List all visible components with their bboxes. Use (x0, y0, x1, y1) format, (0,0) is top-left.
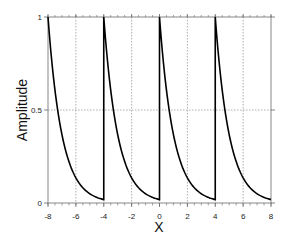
y-tick-label: 1 (38, 13, 43, 22)
x-tick-label: 4 (213, 212, 218, 221)
x-tick-label: 2 (185, 212, 190, 221)
x-tick-label: -6 (72, 212, 80, 221)
y-tick-label: 0.5 (31, 106, 43, 115)
y-axis-label: Amplitude (14, 79, 30, 141)
x-tick-label: -2 (128, 212, 136, 221)
axis-ticks: -8-6-4-20246800.51 (31, 13, 275, 221)
x-tick-label: -4 (100, 212, 108, 221)
y-tick-label: 0 (38, 199, 43, 208)
x-tick-label: -8 (44, 212, 52, 221)
x-axis-label: X (154, 219, 164, 235)
x-tick-label: 6 (241, 212, 246, 221)
data-line (48, 17, 271, 200)
chart: -8-6-4-20246800.51 X Amplitude (0, 0, 286, 246)
x-tick-label: 8 (269, 212, 274, 221)
